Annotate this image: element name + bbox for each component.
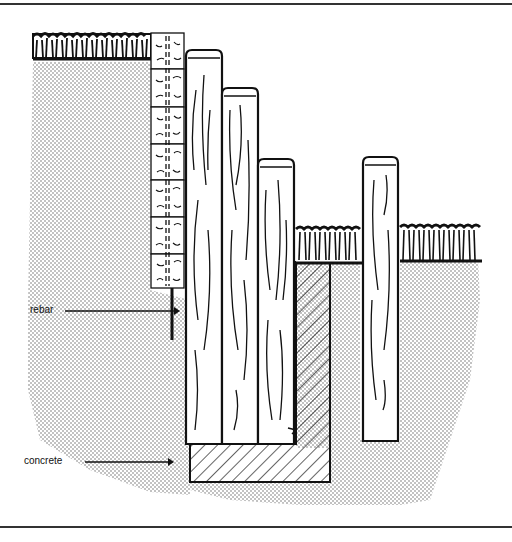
stacked-block-wall (151, 33, 184, 288)
rebar-label: rebar (30, 304, 53, 315)
concrete-label: concrete (24, 455, 62, 466)
timber-post-short (258, 159, 296, 444)
upper-grade-grass (33, 34, 151, 60)
timber-post-medium (222, 88, 258, 444)
retaining-wall-diagram (0, 0, 512, 542)
timber-post-tall (186, 50, 222, 444)
timber-post-freestanding (363, 157, 398, 441)
